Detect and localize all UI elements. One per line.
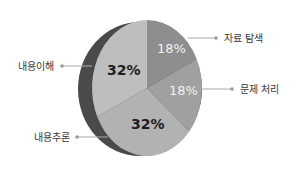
label-content-inference: 내용추론	[34, 132, 70, 143]
pie-chart: 자료 탐색 문제 처리 내용이해 내용추론 18% 18% 32% 32%	[0, 0, 297, 173]
percent-problem-solving: 18%	[169, 83, 198, 98]
label-problem-solving: 문제 처리	[240, 84, 279, 95]
percent-content-comprehension: 32%	[107, 62, 141, 78]
percent-data-exploration: 18%	[157, 41, 186, 56]
percent-content-inference: 32%	[131, 116, 165, 132]
label-content-comprehension: 내용이해	[18, 60, 54, 72]
label-data-exploration: 자료 탐색	[224, 33, 263, 44]
